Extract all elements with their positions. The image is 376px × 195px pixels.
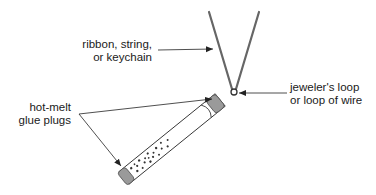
loop-label: jeweler's loop or loop of wire <box>290 81 362 107</box>
jeweler-loop <box>231 89 237 95</box>
ribbon-label-line1: ribbon, string, <box>82 38 152 51</box>
glue-plugs-label: hot-melt glue plugs <box>19 101 71 127</box>
ribbon-string <box>209 12 259 89</box>
glue-arrow-bottom <box>79 114 121 166</box>
ribbon-label-line2: or keychain <box>82 51 152 64</box>
loop-label-line1: jeweler's loop <box>290 81 362 94</box>
ribbon-arrow <box>158 49 213 50</box>
glue-label-line1: hot-melt <box>19 101 71 114</box>
ribbon-label: ribbon, string, or keychain <box>82 38 152 64</box>
glue-arrow-top <box>79 99 212 114</box>
loop-label-line2: or loop of wire <box>290 94 362 107</box>
glue-label-line2: glue plugs <box>19 114 71 127</box>
